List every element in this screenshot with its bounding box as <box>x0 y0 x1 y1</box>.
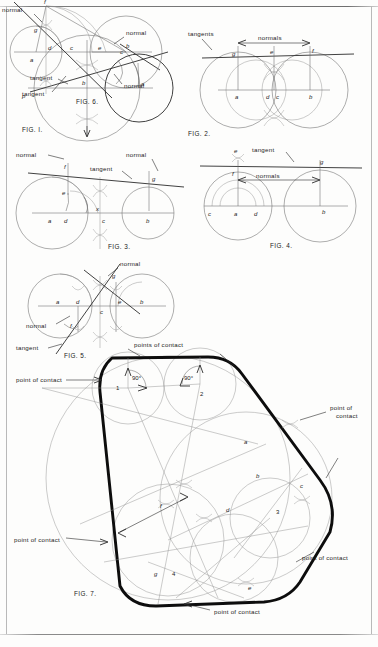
fig6-point-f: f <box>44 0 47 5</box>
fig6-label-normal-top: normal <box>2 6 22 13</box>
fig4-point-d: d <box>254 211 258 217</box>
fig6-label-tangent: tangent <box>22 90 44 97</box>
fig6-point-g: g <box>34 27 38 33</box>
fig3-point-a: a <box>48 218 52 224</box>
fig3-caption: FIG. 3. <box>108 243 130 250</box>
fig7-point-e: e <box>248 585 252 591</box>
fig3-label-tangent: tangent <box>90 165 112 172</box>
fig7-caption: FIG. 7. <box>74 590 96 597</box>
fig5-point-a: a <box>56 299 60 305</box>
fig2-point-e: e <box>270 49 274 55</box>
fig3-label-normal-left: normal <box>16 151 36 158</box>
fig5-point-b: b <box>140 299 144 305</box>
fig7-number-2: 2 <box>200 391 204 397</box>
fig6-point-a: a <box>30 57 34 63</box>
figure-2: tangents normals g e f a d c b FIG. 2. <box>190 22 370 142</box>
fig2-point-f: f <box>312 48 315 54</box>
fig4-point-b: b <box>322 209 326 215</box>
fig7-angle-1: 90° <box>132 375 142 381</box>
fig3-point-x: x <box>95 206 100 212</box>
fig6-label-normal-right: normal <box>124 82 144 89</box>
figure-3: normal normal tangent f g e a d x c b FI… <box>8 145 188 255</box>
figure-7: points of contact point of contact point… <box>8 348 370 638</box>
fig5-label-normal-left: normal <box>26 322 46 329</box>
fig2-point-b: b <box>309 94 313 100</box>
fig3-point-c: c <box>102 218 105 224</box>
fig7-point-a: a <box>244 439 248 445</box>
fig7-label-point-of-contact-right-lower: point of contact <box>302 554 348 561</box>
fig7-angle-2: 90° <box>184 375 194 381</box>
figure-4: tangent normals e f g c a d b FIG. 4. <box>190 144 370 254</box>
fig2-label-tangents: tangents <box>188 30 214 37</box>
fig6-point-d: d <box>48 45 52 51</box>
fig5-point-c: c <box>100 309 103 315</box>
fig5-point-f: f <box>70 323 73 329</box>
figure-6: normal normal tangent f g a d c e b FIG.… <box>0 0 180 108</box>
fig7-label-point-of-contact-bottom-left: point of contact <box>14 536 60 543</box>
fig3-point-g: g <box>152 176 156 182</box>
fig2-point-c: c <box>276 94 279 100</box>
fig4-point-g: g <box>320 159 324 165</box>
fig4-point-a: a <box>234 211 238 217</box>
fig2-point-a: a <box>235 94 239 100</box>
fig7-label-point-of-contact-left: point of contact <box>16 376 62 383</box>
fig7-point-c: c <box>300 483 303 489</box>
fig3-label-normal-right: normal <box>126 151 146 158</box>
fig7-point-b: b <box>256 473 260 479</box>
fig2-label-normals: normals <box>258 34 282 41</box>
fig2-point-d: d <box>266 94 270 100</box>
fig7-number-3: 3 <box>276 509 280 515</box>
fig5-point-d: d <box>76 299 80 305</box>
fig4-point-c: c <box>208 211 211 217</box>
drawing-page: tangent normal p b a c FIG. I. tangents <box>0 0 378 647</box>
page-right-border <box>371 6 372 635</box>
fig4-label-tangent: tangent <box>252 146 274 153</box>
fig6-point-c: c <box>70 45 73 51</box>
fig6-point-b: b <box>126 43 130 49</box>
fig3-point-e: e <box>62 190 66 196</box>
fig6-caption: FIG. 6. <box>76 98 98 105</box>
fig7-point-d: d <box>226 507 230 513</box>
fig3-point-f: f <box>64 164 67 170</box>
fig7-label-point-of-contact-right-a: point ofcontact <box>330 404 358 419</box>
fig5-point-g: g <box>112 273 116 279</box>
fig7-label-points-of-contact-top: points of contact <box>134 341 183 348</box>
fig7-point-f: f <box>160 503 163 509</box>
fig7-point-g: g <box>154 571 158 577</box>
fig7-number-4: 4 <box>172 571 176 577</box>
fig4-caption: FIG. 4. <box>270 242 292 249</box>
fig1-caption: FIG. I. <box>22 126 43 133</box>
fig3-point-b: b <box>146 218 150 224</box>
fig4-point-e: e <box>234 148 238 154</box>
fig7-label-point-of-contact-bottom: point of contact <box>214 608 260 615</box>
fig6-point-e: e <box>98 45 102 51</box>
fig3-point-d: d <box>64 218 68 224</box>
fig4-label-normals: normals <box>256 172 280 179</box>
fig5-label-normal-top: normal <box>120 260 140 267</box>
fig2-caption: FIG. 2. <box>188 130 210 137</box>
